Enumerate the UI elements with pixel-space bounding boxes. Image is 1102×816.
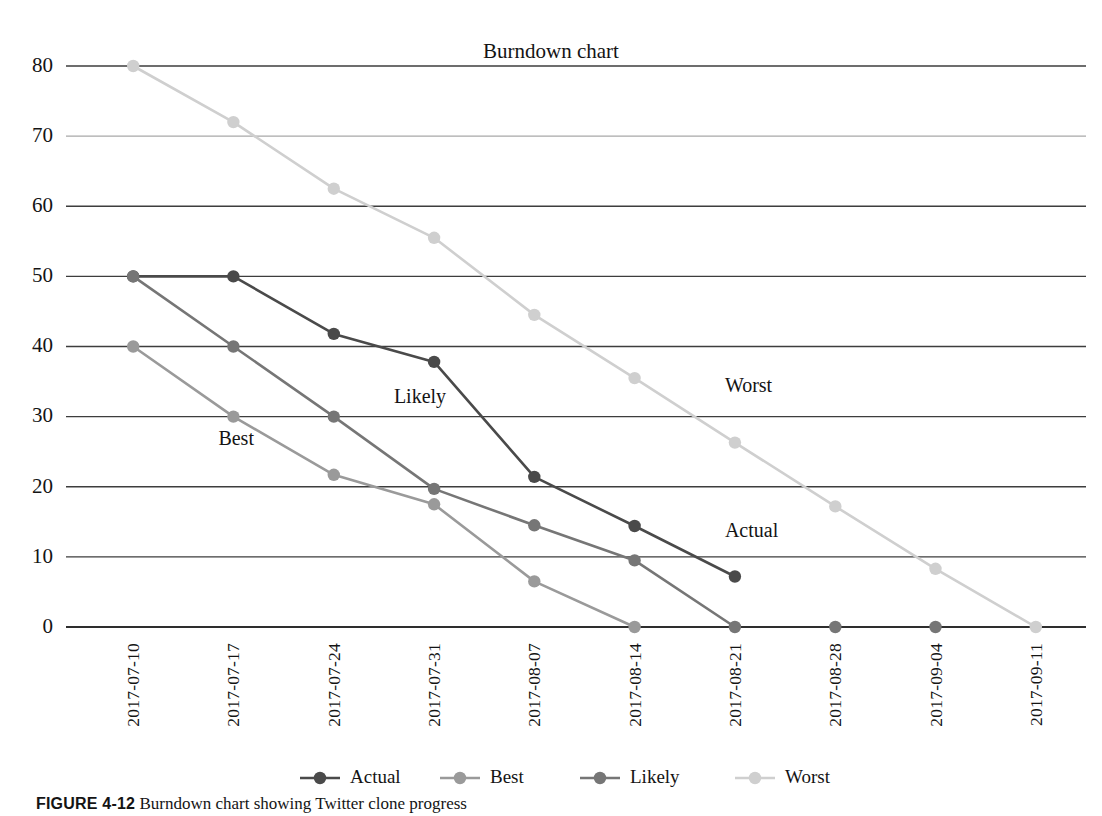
data-point-likely bbox=[227, 340, 239, 352]
data-point-worst bbox=[428, 232, 440, 244]
data-point-likely bbox=[127, 270, 139, 282]
annotation-worst: Worst bbox=[725, 374, 773, 396]
legend-label: Best bbox=[490, 766, 525, 787]
y-tick-label: 60 bbox=[32, 193, 53, 217]
data-point-likely bbox=[328, 410, 340, 422]
x-tick-label: 2017-07-17 bbox=[223, 643, 243, 727]
y-tick-label: 0 bbox=[43, 614, 54, 638]
figure-caption-text: FIGURE 4-12 Burndown chart showing Twitt… bbox=[36, 794, 467, 814]
data-point-best bbox=[127, 340, 139, 352]
data-point-actual bbox=[227, 270, 239, 282]
y-tick-label: 30 bbox=[32, 403, 53, 427]
y-tick-label: 20 bbox=[32, 474, 53, 498]
series-line-likely bbox=[133, 276, 735, 627]
data-point-likely bbox=[528, 519, 540, 531]
legend-item-best[interactable]: Best bbox=[440, 766, 525, 787]
x-tick-label: 2017-08-21 bbox=[725, 643, 745, 727]
legend-swatch-marker bbox=[594, 772, 606, 784]
legend-item-worst[interactable]: Worst bbox=[735, 766, 831, 787]
annotation-actual: Actual bbox=[725, 519, 779, 541]
y-tick-label: 40 bbox=[32, 333, 53, 357]
data-point-actual bbox=[428, 356, 440, 368]
chart-legend: ActualBestLikelyWorst bbox=[300, 766, 831, 787]
x-tick-label: 2017-09-04 bbox=[926, 643, 946, 727]
data-point-actual bbox=[528, 471, 540, 483]
y-tick-label: 50 bbox=[32, 263, 53, 287]
annotation-likely: Likely bbox=[394, 385, 446, 408]
y-axis-tick-labels: 01020304050607080 bbox=[32, 53, 53, 638]
data-point-worst bbox=[829, 500, 841, 512]
data-point-worst bbox=[729, 436, 741, 448]
data-point-worst bbox=[929, 563, 941, 575]
data-point-actual bbox=[328, 328, 340, 340]
data-point-worst bbox=[628, 372, 640, 384]
burndown-chart: 01020304050607080 2017-07-102017-07-1720… bbox=[0, 0, 1102, 790]
data-point-best bbox=[428, 498, 440, 510]
legend-item-likely[interactable]: Likely bbox=[580, 766, 680, 787]
figure-caption-number: FIGURE 4-12 bbox=[36, 795, 135, 812]
figure-container: 01020304050607080 2017-07-102017-07-1720… bbox=[0, 0, 1102, 816]
data-point-worst bbox=[328, 183, 340, 195]
data-point-best bbox=[628, 621, 640, 633]
chart-title: Burndown chart bbox=[483, 39, 619, 63]
figure-caption-body: Burndown chart showing Twitter clone pro… bbox=[139, 794, 467, 813]
legend-label: Likely bbox=[630, 766, 680, 787]
annotation-best: Best bbox=[218, 427, 254, 449]
figure-caption: FIGURE 4-12 Burndown chart showing Twitt… bbox=[0, 792, 1102, 816]
x-tick-label: 2017-08-28 bbox=[825, 643, 845, 727]
legend-swatch-marker bbox=[749, 772, 761, 784]
data-point-worst bbox=[528, 309, 540, 321]
x-tick-label: 2017-07-24 bbox=[324, 643, 344, 727]
x-axis-tick-labels: 2017-07-102017-07-172017-07-242017-07-31… bbox=[123, 643, 1046, 727]
data-point-zero bbox=[929, 621, 941, 633]
data-point-best bbox=[227, 410, 239, 422]
legend-swatch-marker bbox=[314, 772, 326, 784]
gridlines bbox=[66, 66, 1086, 627]
x-tick-label: 2017-08-07 bbox=[524, 643, 544, 727]
x-tick-label: 2017-08-14 bbox=[625, 643, 645, 727]
y-tick-label: 10 bbox=[32, 544, 53, 568]
legend-label: Worst bbox=[785, 766, 831, 787]
legend-item-actual[interactable]: Actual bbox=[300, 766, 401, 787]
data-point-actual bbox=[729, 570, 741, 582]
data-point-likely bbox=[628, 554, 640, 566]
x-tick-label: 2017-07-10 bbox=[123, 643, 143, 727]
x-tick-label: 2017-09-11 bbox=[1026, 643, 1046, 726]
legend-label: Actual bbox=[350, 766, 401, 787]
data-point-likely bbox=[428, 483, 440, 495]
data-point-actual bbox=[628, 520, 640, 532]
data-point-likely bbox=[729, 621, 741, 633]
y-tick-label: 80 bbox=[32, 53, 53, 77]
data-point-worst bbox=[227, 116, 239, 128]
x-tick-label: 2017-07-31 bbox=[424, 643, 444, 727]
y-tick-label: 70 bbox=[32, 123, 53, 147]
legend-swatch-marker bbox=[454, 772, 466, 784]
data-point-worst bbox=[1030, 621, 1042, 633]
data-point-best bbox=[528, 575, 540, 587]
data-point-worst bbox=[127, 60, 139, 72]
data-point-zero bbox=[829, 621, 841, 633]
data-point-best bbox=[328, 469, 340, 481]
